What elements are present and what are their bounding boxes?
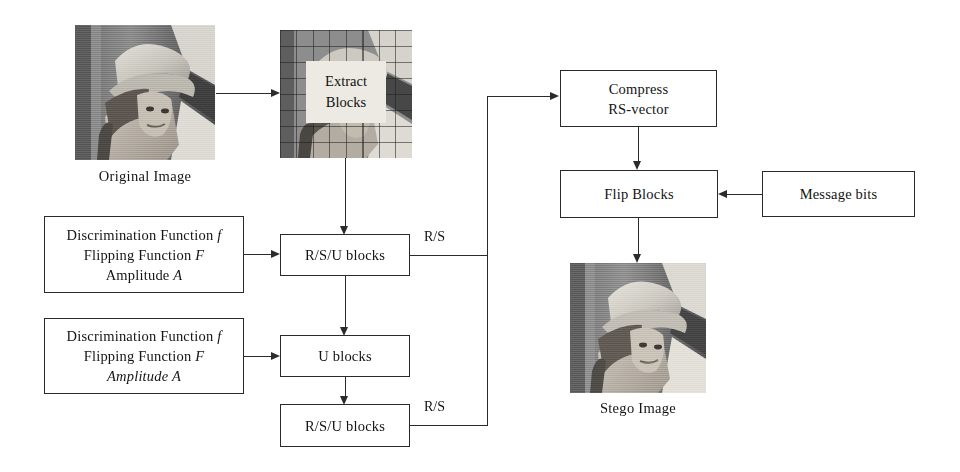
blocked-image: Extract Blocks (280, 30, 412, 158)
params-top-box: Discrimination Function f Flipping Funct… (44, 216, 244, 293)
arrowhead-original-to-extract (271, 89, 280, 97)
stego-image (570, 263, 706, 393)
edge-rsu-top-rs-horizontal (410, 255, 488, 256)
edge-compress-to-flip (638, 127, 639, 161)
diagram-canvas: Original Image Extract Blocks Discrimina… (0, 0, 960, 472)
original-image-caption: Original Image (75, 168, 215, 185)
extract-blocks-line2: Blocks (326, 92, 366, 113)
edge-extract-to-rsu-top (345, 158, 346, 226)
edge-original-to-extract (216, 93, 271, 94)
params-bottom-line3: Amplitude A (107, 366, 181, 386)
arrowhead-compress-to-flip (633, 161, 641, 170)
params-top-line1: Discrimination Function f (67, 225, 222, 245)
stego-image-caption: Stego Image (570, 400, 706, 417)
params-top-line2: Flipping Function F (84, 245, 205, 265)
compress-line2: RS-vector (608, 99, 669, 119)
arrowhead-params-top-to-rsu-top (271, 250, 280, 258)
discrimination-symbol-f-2: f (217, 328, 221, 344)
message-bits-box: Message bits (762, 171, 915, 217)
edge-label-rs-top: R/S (424, 229, 445, 245)
flipping-symbol-F: F (195, 247, 204, 263)
compress-rs-vector-box: Compress RS-vector (560, 70, 717, 127)
params-bottom-box: Discrimination Function f Flipping Funct… (44, 318, 244, 394)
original-image-raster (75, 25, 215, 160)
edge-params-top-to-rsu-top (244, 254, 272, 255)
amplitude-symbol-A: A (173, 267, 182, 283)
rsu-blocks-top-box: R/S/U blocks (280, 234, 410, 276)
stego-image-raster (570, 263, 706, 393)
edge-params-bottom-to-u-blocks (244, 356, 272, 357)
edge-rs-trunk-to-compress (487, 96, 551, 97)
arrowhead-params-bottom-to-u-blocks (271, 352, 280, 360)
edge-rsu-bottom-rs-horizontal (410, 425, 488, 426)
edge-rsu-top-to-u-blocks (345, 276, 346, 327)
extract-blocks-label: Extract Blocks (306, 61, 386, 123)
arrowhead-message-bits-to-flip (718, 190, 727, 198)
compress-line1: Compress (609, 79, 669, 99)
original-image (75, 25, 215, 160)
discrimination-symbol-f: f (217, 227, 221, 243)
params-bottom-line2: Flipping Function F (84, 346, 205, 366)
params-bottom-line1: Discrimination Function f (67, 326, 222, 346)
rsu-blocks-bottom-box: R/S/U blocks (280, 404, 410, 447)
arrowhead-rs-to-compress (550, 92, 559, 100)
edge-label-rs-bottom: R/S (424, 399, 445, 415)
u-blocks-box: U blocks (280, 335, 410, 377)
flip-blocks-box: Flip Blocks (560, 170, 718, 218)
extract-blocks-line1: Extract (325, 71, 367, 92)
arrowhead-flip-to-stego (633, 254, 641, 263)
flipping-symbol-F-2: F (195, 348, 204, 364)
edge-rs-trunk-vertical (487, 96, 488, 425)
edge-flip-to-stego (638, 218, 639, 254)
params-top-line3: Amplitude A (106, 265, 183, 285)
edge-message-bits-to-flip (727, 194, 762, 195)
